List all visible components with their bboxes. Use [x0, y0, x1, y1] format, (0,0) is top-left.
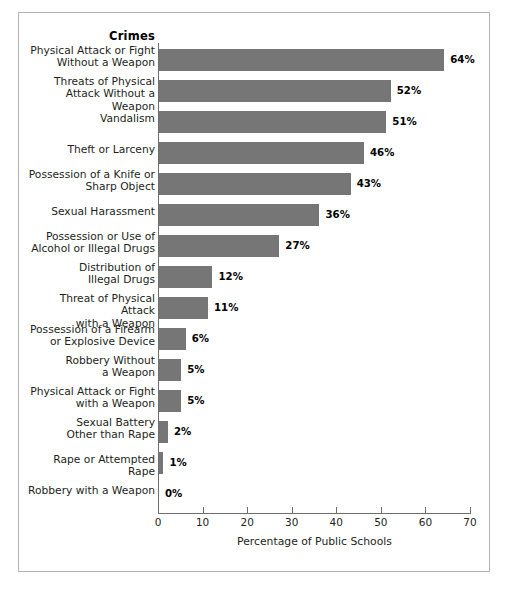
bar-category-label: Possession of a Knife or Sharp Object: [23, 169, 155, 194]
bar-value-label: 5%: [181, 390, 204, 412]
bar-category-label: Distribution of Illegal Drugs: [23, 262, 155, 287]
bar-category-label: Possession or Use of Alcohol or Illegal …: [23, 231, 155, 256]
bar: [159, 359, 181, 381]
bar-track: 0%: [159, 483, 489, 505]
bar-value-label: 52%: [391, 80, 421, 102]
bar-row: Robbery Without a Weapon5%: [19, 356, 489, 387]
x-axis-title: Percentage of Public Schools: [158, 535, 471, 548]
x-axis-tick: [158, 507, 159, 513]
bar-row: Sexual Battery Other than Rape2%: [19, 418, 489, 449]
bar: [159, 421, 168, 443]
bar: [159, 204, 319, 226]
bar-category-label: Sexual Harassment: [23, 206, 155, 218]
bar-value-label: 12%: [212, 266, 242, 288]
bar: [159, 111, 386, 133]
category-axis-title: Crimes: [19, 29, 155, 43]
x-axis-tick: [247, 507, 248, 513]
bar-value-label: 6%: [186, 328, 209, 350]
x-axis-tick-label: 60: [405, 516, 445, 528]
bar-row: Threat of Physical Attack with a Weapon1…: [19, 294, 489, 325]
bar-value-label: 2%: [168, 421, 191, 443]
bar: [159, 80, 391, 102]
bar-track: 43%: [159, 173, 489, 195]
x-axis-tick: [292, 507, 293, 513]
x-axis-tick-label: 10: [183, 516, 223, 528]
bar-track: 64%: [159, 49, 489, 71]
y-axis-line: [158, 43, 159, 513]
bar-track: 1%: [159, 452, 489, 474]
bar: [159, 297, 208, 319]
bar: [159, 235, 279, 257]
bar-track: 5%: [159, 359, 489, 381]
bar-category-label: Robbery with a Weapon: [23, 485, 155, 497]
bar-row: Threats of Physical Attack Without a Wea…: [19, 77, 489, 108]
x-axis-tick: [425, 507, 426, 513]
bar-category-label: Possession of a Firearm or Explosive Dev…: [23, 324, 155, 349]
bar-row: Rape or Attempted Rape1%: [19, 449, 489, 480]
bar-row: Possession or Use of Alcohol or Illegal …: [19, 232, 489, 263]
bar-value-label: 27%: [279, 235, 309, 257]
bar-category-label: Vandalism: [23, 113, 155, 125]
bar-row: Vandalism51%: [19, 108, 489, 139]
bar-track: 46%: [159, 142, 489, 164]
bar-category-label: Sexual Battery Other than Rape: [23, 417, 155, 442]
bar-track: 36%: [159, 204, 489, 226]
x-axis-line: [158, 513, 471, 514]
x-axis-tick-label: 20: [227, 516, 267, 528]
bar: [159, 328, 186, 350]
bar: [159, 390, 181, 412]
x-axis-tick: [381, 507, 382, 513]
bar-track: 27%: [159, 235, 489, 257]
chart-plot-area: Crimes Physical Attack or Fight Without …: [19, 13, 489, 571]
bar-value-label: 43%: [351, 173, 381, 195]
bar-category-label: Theft or Larceny: [23, 144, 155, 156]
bar-value-label: 5%: [181, 359, 204, 381]
bar-row: Sexual Harassment36%: [19, 201, 489, 232]
x-axis-tick-label: 0: [138, 516, 178, 528]
x-axis-tick-label: 70: [450, 516, 490, 528]
bar-category-label: Robbery Without a Weapon: [23, 355, 155, 380]
bar: [159, 173, 351, 195]
bar-row: Distribution of Illegal Drugs12%: [19, 263, 489, 294]
bar-value-label: 64%: [444, 49, 474, 71]
bar-track: 51%: [159, 111, 489, 133]
x-axis-tick: [336, 507, 337, 513]
bar-value-label: 11%: [208, 297, 238, 319]
bar: [159, 142, 364, 164]
bar-track: 6%: [159, 328, 489, 350]
bar-value-label: 51%: [386, 111, 416, 133]
x-axis-tick-label: 30: [272, 516, 312, 528]
bar: [159, 49, 444, 71]
x-axis-tick-label: 50: [361, 516, 401, 528]
bar-row: Theft or Larceny46%: [19, 139, 489, 170]
bar-category-label: Physical Attack or Fight Without a Weapo…: [23, 45, 155, 70]
bar-row: Possession of a Knife or Sharp Object43%: [19, 170, 489, 201]
bar-rows: Physical Attack or Fight Without a Weapo…: [19, 46, 489, 511]
bar-row: Physical Attack or Fight with a Weapon5%: [19, 387, 489, 418]
bar-value-label: 1%: [163, 452, 186, 474]
bar: [159, 266, 212, 288]
bar-track: 5%: [159, 390, 489, 412]
bar-value-label: 46%: [364, 142, 394, 164]
bar-track: 2%: [159, 421, 489, 443]
x-axis-tick: [470, 507, 471, 513]
chart-figure: Crimes Physical Attack or Fight Without …: [18, 12, 490, 572]
bar-row: Robbery with a Weapon0%: [19, 480, 489, 511]
bar-value-label: 0%: [159, 483, 182, 505]
bar-value-label: 36%: [319, 204, 349, 226]
x-axis-tick: [203, 507, 204, 513]
bar-row: Physical Attack or Fight Without a Weapo…: [19, 46, 489, 77]
x-axis-tick-label: 40: [316, 516, 356, 528]
bar-track: 11%: [159, 297, 489, 319]
bar-category-label: Rape or Attempted Rape: [23, 454, 155, 479]
bar-category-label: Physical Attack or Fight with a Weapon: [23, 386, 155, 411]
bar-row: Possession of a Firearm or Explosive Dev…: [19, 325, 489, 356]
bar-track: 12%: [159, 266, 489, 288]
bar-track: 52%: [159, 80, 489, 102]
